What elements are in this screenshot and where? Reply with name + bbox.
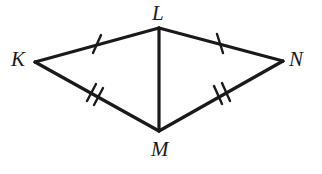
segment-MN [159, 61, 283, 131]
vertex-label-N: N [289, 49, 303, 70]
geometry-figure-canvas: K L N M [0, 0, 322, 174]
figure-edges [35, 28, 283, 131]
vertex-label-K: K [11, 49, 25, 70]
vertex-label-L: L [152, 3, 164, 24]
vertex-label-M: M [151, 139, 169, 160]
segment-KM [35, 62, 159, 131]
